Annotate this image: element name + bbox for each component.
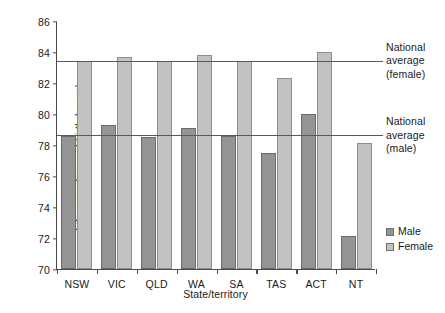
bar-qld-female: [157, 61, 172, 269]
x-axis-tick-mark: [97, 269, 98, 274]
x-axis-tick-mark: [296, 269, 297, 274]
bar-wa-female: [197, 55, 212, 269]
bar-nsw-male: [61, 136, 76, 269]
bar-act-male: [301, 114, 316, 269]
bar-nsw-female: [77, 61, 92, 269]
y-axis-tick-label: 76: [38, 171, 57, 183]
reference-line-label-line: average: [386, 129, 425, 143]
x-axis-title: State/territory: [56, 288, 375, 300]
legend-item-female: Female: [386, 239, 433, 254]
x-axis-tick-mark: [336, 269, 337, 274]
y-axis-tick-label: 72: [38, 233, 57, 245]
life-expectancy-bar-chart: Life expectancy at birth (years) 7072747…: [0, 0, 445, 313]
reference-line-label-line: (male): [386, 142, 425, 156]
reference-line-label-male-average: Nationalaverage(male): [386, 115, 425, 156]
bar-nt-male: [341, 236, 356, 269]
x-axis-tick-mark: [137, 269, 138, 274]
chart-legend: MaleFemale: [386, 224, 433, 254]
bar-nt-female: [357, 143, 372, 269]
legend-swatch-female-icon: [386, 243, 394, 251]
reference-line-male-average: [57, 135, 376, 136]
bar-vic-female: [117, 57, 132, 269]
bar-sa-female: [237, 61, 252, 269]
plot-area: 707274767880828486NSWVICQLDWASATASACTNT: [56, 22, 375, 270]
y-axis-tick-label: 80: [38, 109, 57, 121]
legend-item-male: Male: [386, 224, 433, 239]
x-axis-tick-mark: [217, 269, 218, 274]
x-axis-tick-mark: [177, 269, 178, 274]
x-axis-tick-mark: [256, 269, 257, 274]
reference-line-extension-female-average: [375, 61, 383, 62]
y-axis-tick-label: 70: [38, 264, 57, 276]
y-axis-tick-label: 78: [38, 140, 57, 152]
y-axis-tick-label: 82: [38, 78, 57, 90]
legend-label: Female: [398, 239, 433, 254]
legend-label: Male: [398, 224, 421, 239]
bar-tas-female: [277, 78, 292, 269]
y-axis-tick-label: 74: [38, 202, 57, 214]
x-axis-tick-mark: [376, 269, 377, 274]
bar-act-female: [317, 52, 332, 269]
reference-line-label-line: National: [386, 115, 425, 129]
bar-tas-male: [261, 153, 276, 269]
reference-line-label-line: (female): [386, 68, 425, 82]
reference-line-female-average: [57, 61, 376, 62]
x-axis-tick-mark: [57, 269, 58, 274]
bar-wa-male: [181, 128, 196, 269]
reference-line-label-female-average: Nationalaverage(female): [386, 41, 425, 82]
bar-vic-male: [101, 125, 116, 269]
legend-swatch-male-icon: [386, 228, 394, 236]
y-axis-tick-label: 84: [38, 47, 57, 59]
reference-line-extension-male-average: [375, 135, 383, 136]
bar-sa-male: [221, 136, 236, 269]
reference-line-label-line: National: [386, 41, 425, 55]
y-axis-tick-label: 86: [38, 16, 57, 28]
bar-qld-male: [141, 137, 156, 269]
reference-line-label-line: average: [386, 54, 425, 68]
